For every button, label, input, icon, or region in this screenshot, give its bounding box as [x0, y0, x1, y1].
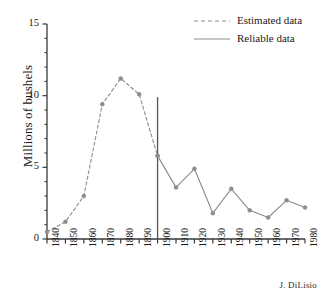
- credit-attribution: J. DiLisio: [279, 280, 317, 290]
- x-tick-label: 1850: [69, 228, 79, 247]
- x-tick-label: 1860: [88, 228, 98, 247]
- data-point-marker: [45, 230, 49, 234]
- x-tick-label: 1870: [106, 228, 116, 247]
- data-point-marker: [119, 76, 123, 80]
- data-point-marker: [192, 167, 196, 171]
- data-point-marker: [285, 198, 289, 202]
- y-tick-label: 10: [17, 89, 39, 100]
- y-axis-title: Millions of bushels: [20, 26, 36, 206]
- legend-entry-label: Estimated data: [237, 14, 302, 26]
- x-tick-label: 1940: [235, 228, 245, 247]
- chart-canvas: [0, 0, 323, 295]
- chart-figure: Millions of bushels 051015 1840185018601…: [0, 0, 323, 295]
- x-tick-label: 1980: [309, 228, 319, 247]
- x-tick-label: 1890: [143, 228, 153, 247]
- x-tick-label: 1880: [125, 228, 135, 247]
- data-point-marker: [82, 194, 86, 198]
- y-tick-label: 5: [17, 160, 39, 171]
- x-tick-label: 1960: [272, 228, 282, 247]
- data-point-marker: [266, 216, 270, 220]
- y-tick-label: 15: [17, 17, 39, 28]
- data-series-group: [45, 76, 307, 233]
- data-point-marker: [100, 102, 104, 106]
- series-line: [47, 78, 158, 231]
- data-point-marker: [137, 92, 141, 96]
- data-point-marker: [248, 208, 252, 212]
- data-point-marker: [63, 220, 67, 224]
- x-tick-label: 1950: [254, 228, 264, 247]
- data-point-marker: [303, 205, 307, 209]
- data-point-marker: [211, 211, 215, 215]
- x-tick-label: 1920: [198, 228, 208, 247]
- data-point-marker: [229, 187, 233, 191]
- y-tick-label: 0: [17, 232, 39, 243]
- legend-symbols: [194, 21, 230, 39]
- axes: [43, 24, 306, 244]
- data-point-marker: [156, 154, 160, 158]
- x-tick-label: 1910: [180, 228, 190, 247]
- legend-entry-label: Reliable data: [237, 32, 295, 44]
- x-tick-label: 1840: [51, 228, 61, 247]
- data-point-marker: [174, 185, 178, 189]
- x-tick-label: 1970: [291, 228, 301, 247]
- x-tick-label: 1900: [162, 228, 172, 247]
- x-tick-label: 1930: [217, 228, 227, 247]
